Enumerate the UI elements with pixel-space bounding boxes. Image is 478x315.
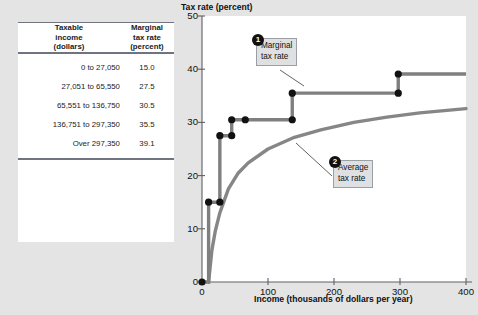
table-rule-bottom-row bbox=[18, 158, 174, 160]
callout-badge-1: 1 bbox=[252, 34, 264, 46]
header-line-2: income bbox=[18, 33, 120, 43]
table-row: 65,551 to 136,750 30.5 bbox=[18, 101, 174, 111]
spacer bbox=[18, 149, 174, 158]
x-tick-label: 300 bbox=[387, 286, 413, 297]
data-point-marker bbox=[242, 116, 249, 123]
cell-income: 65,551 to 136,750 bbox=[18, 101, 120, 111]
cell-income: Over 297,350 bbox=[18, 139, 120, 149]
data-point-marker bbox=[395, 70, 402, 77]
callout-line-2: tax rate bbox=[261, 52, 292, 63]
x-tick-label: 100 bbox=[255, 286, 281, 297]
cell-rate: 27.5 bbox=[120, 82, 174, 92]
column-header-marginal-tax-rate: Marginal tax rate (percent) bbox=[120, 23, 174, 52]
header-line-1: Marginal bbox=[120, 23, 174, 33]
y-tick-label: 50 bbox=[180, 10, 198, 21]
data-point-marker bbox=[289, 90, 296, 97]
header-line-1: Taxable bbox=[18, 23, 120, 33]
tax-rate-chart: Tax rate (percent) Income (thousands of … bbox=[180, 0, 478, 315]
marginal-tax-rate-table-panel: Taxable income (dollars) Marginal tax ra… bbox=[18, 22, 174, 242]
cell-income: 136,751 to 297,350 bbox=[18, 120, 120, 130]
cell-rate: 15.0 bbox=[120, 63, 174, 73]
callout-leader-average bbox=[296, 143, 332, 176]
data-point-marker bbox=[395, 90, 402, 97]
cell-rate: 39.1 bbox=[120, 139, 174, 149]
table-header: Taxable income (dollars) Marginal tax ra… bbox=[18, 22, 174, 54]
spacer bbox=[18, 111, 174, 120]
spacer bbox=[18, 130, 174, 139]
average-tax-rate-curve bbox=[209, 109, 466, 282]
table-row: 27,051 to 65,550 27.5 bbox=[18, 82, 174, 92]
y-tick-label: 40 bbox=[180, 63, 198, 74]
data-point-marker bbox=[205, 199, 212, 206]
column-header-taxable-income: Taxable income (dollars) bbox=[18, 23, 120, 52]
y-tick-label: 20 bbox=[180, 170, 198, 181]
x-tick-label: 400 bbox=[453, 286, 478, 297]
cell-rate: 35.5 bbox=[120, 120, 174, 130]
callout-line-2: tax rate bbox=[338, 174, 368, 185]
data-point-marker bbox=[289, 116, 296, 123]
table-row: Over 297,350 39.1 bbox=[18, 139, 174, 149]
y-tick-label: 30 bbox=[180, 116, 198, 127]
x-tick-label: 0 bbox=[189, 286, 215, 297]
table-row: 0 to 27,050 15.0 bbox=[18, 63, 174, 73]
header-line-2: tax rate bbox=[120, 33, 174, 43]
callout-line-1: Average bbox=[338, 163, 368, 174]
callout-badge-2: 2 bbox=[329, 156, 341, 168]
x-tick-label: 200 bbox=[321, 286, 347, 297]
spacer bbox=[18, 92, 174, 101]
table-rule-bottom bbox=[18, 158, 174, 160]
plot-svg bbox=[180, 0, 478, 315]
header-line-3: (dollars) bbox=[18, 42, 120, 52]
data-point-marker bbox=[198, 278, 205, 285]
spacer bbox=[18, 73, 174, 82]
callout-leader-marginal bbox=[280, 70, 304, 86]
y-tick-label: 10 bbox=[180, 223, 198, 234]
data-point-marker bbox=[216, 132, 223, 139]
data-point-marker bbox=[228, 132, 235, 139]
cell-rate: 30.5 bbox=[120, 101, 174, 111]
table-body: 0 to 27,050 15.0 27,051 to 65,550 27.5 6… bbox=[18, 54, 174, 160]
data-point-marker bbox=[216, 199, 223, 206]
spacer bbox=[18, 54, 174, 63]
callout-line-1: Marginal bbox=[261, 41, 292, 52]
data-point-marker bbox=[228, 116, 235, 123]
tax-bracket-table: Taxable income (dollars) Marginal tax ra… bbox=[18, 22, 174, 160]
table-row: 136,751 to 297,350 35.5 bbox=[18, 120, 174, 130]
cell-income: 27,051 to 65,550 bbox=[18, 82, 120, 92]
table-header-row: Taxable income (dollars) Marginal tax ra… bbox=[18, 23, 174, 52]
cell-income: 0 to 27,050 bbox=[18, 63, 120, 73]
header-line-3: (percent) bbox=[120, 42, 174, 52]
